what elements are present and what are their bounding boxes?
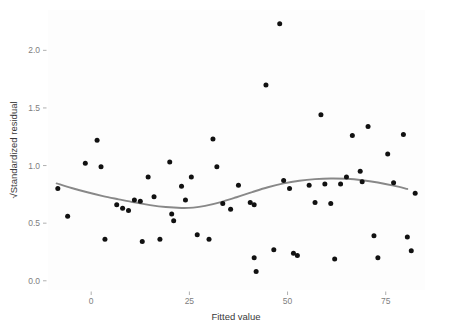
data-point	[358, 169, 363, 174]
data-point	[405, 235, 410, 240]
data-point	[114, 202, 119, 207]
data-point	[277, 21, 282, 26]
x-axis-tick-label: 75	[381, 296, 391, 306]
data-point	[328, 201, 333, 206]
data-point	[102, 237, 107, 242]
y-axis-title: √Standardized residual	[8, 101, 19, 198]
data-point	[338, 181, 343, 186]
data-point	[171, 218, 176, 223]
data-point	[95, 138, 100, 143]
data-point	[332, 256, 337, 261]
data-point	[318, 112, 323, 117]
data-point	[413, 191, 418, 196]
data-point	[252, 255, 257, 260]
x-axis-title: Fitted value	[211, 311, 260, 322]
data-point	[120, 206, 125, 211]
data-point	[295, 253, 300, 258]
data-point	[146, 175, 151, 180]
plot-panel-background	[48, 10, 425, 290]
data-point	[344, 175, 349, 180]
data-point	[322, 181, 327, 186]
data-point	[287, 186, 292, 191]
data-point	[210, 137, 215, 142]
y-axis-tick-label: 2.0	[28, 45, 40, 55]
x-axis-tick-label: 0	[89, 296, 94, 306]
data-point	[167, 160, 172, 165]
data-point	[99, 164, 104, 169]
data-point	[157, 237, 162, 242]
data-point	[236, 183, 241, 188]
data-point	[307, 183, 312, 188]
data-point	[263, 82, 268, 87]
data-point	[313, 200, 318, 205]
y-axis-tick-label: 1.0	[28, 161, 40, 171]
data-point	[189, 175, 194, 180]
data-point	[252, 202, 257, 207]
data-point	[207, 237, 212, 242]
data-point	[179, 184, 184, 189]
data-point	[271, 247, 276, 252]
data-point	[214, 164, 219, 169]
data-point	[140, 239, 145, 244]
data-point	[138, 199, 143, 204]
y-axis-tick-label: 1.5	[28, 103, 40, 113]
x-axis-tick-label: 25	[185, 296, 195, 306]
data-point	[254, 269, 259, 274]
data-point	[366, 124, 371, 129]
data-point	[350, 133, 355, 138]
data-point	[65, 214, 70, 219]
data-point	[83, 161, 88, 166]
data-point	[220, 201, 225, 206]
data-point	[55, 186, 60, 191]
scatter-plot-figure: 0.00.51.01.52.0 0255075 Fitted value √St…	[0, 0, 459, 328]
data-point	[385, 152, 390, 157]
plot-canvas: 0.00.51.01.52.0 0255075 Fitted value √St…	[0, 0, 459, 328]
x-axis-tick-label: 50	[283, 296, 293, 306]
y-axis-tick-label: 0.0	[28, 276, 40, 286]
data-point	[183, 198, 188, 203]
data-point	[391, 180, 396, 185]
data-point	[401, 132, 406, 137]
data-point	[126, 208, 131, 213]
data-point	[228, 207, 233, 212]
data-point	[169, 211, 174, 216]
data-point	[195, 232, 200, 237]
data-point	[409, 248, 414, 253]
data-point	[375, 255, 380, 260]
y-axis-tick-label: 0.5	[28, 218, 40, 228]
data-point	[360, 179, 365, 184]
data-point	[281, 178, 286, 183]
data-point	[371, 233, 376, 238]
data-point	[132, 198, 137, 203]
data-point	[152, 194, 157, 199]
